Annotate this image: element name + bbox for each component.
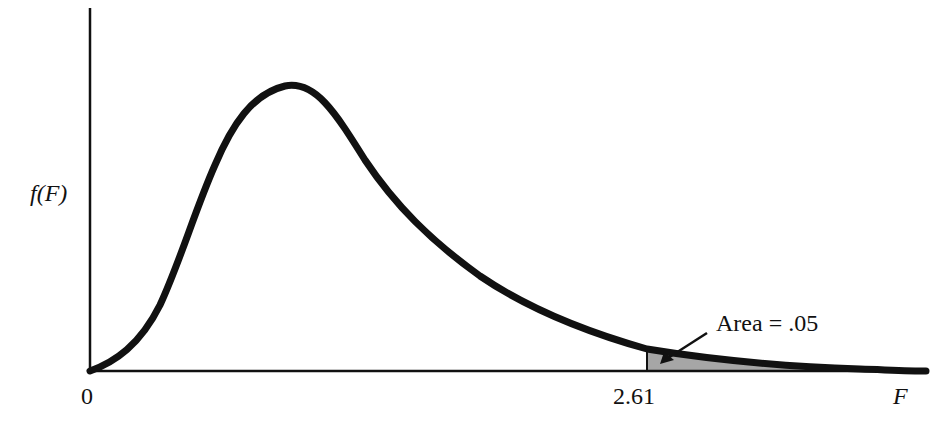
y-axis-label: f(F) — [30, 181, 67, 205]
f-distribution-figure: f(F) 0 2.61 F Area = .05 — [0, 0, 952, 429]
x-tick-zero: 0 — [81, 384, 93, 408]
x-tick-critical-value: 2.61 — [613, 384, 655, 408]
area-annotation: Area = .05 — [716, 311, 818, 335]
x-axis-label: F — [893, 384, 908, 408]
chart-canvas — [0, 0, 952, 429]
